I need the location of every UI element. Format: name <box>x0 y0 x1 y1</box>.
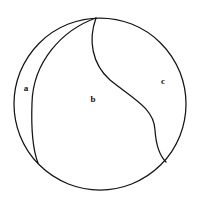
region-label-c: c <box>161 76 165 86</box>
region-label-a: a <box>24 83 29 93</box>
region-label-b: b <box>90 94 95 104</box>
outer-circle-shape <box>14 18 186 190</box>
diagram-root: a b c <box>0 0 200 208</box>
circle-regions-figure: a b c <box>0 0 200 208</box>
